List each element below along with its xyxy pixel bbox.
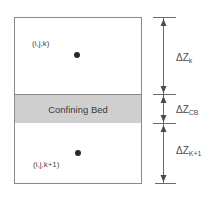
dz-k-delta: ΔZ [176,52,189,63]
dimension-lines [0,0,216,200]
dz-k-label: ΔZk [176,52,192,64]
dz-k-subscript: k [189,57,193,64]
dz-k1-subscript: K+1 [189,150,202,157]
dz-k1-label: ΔZK+1 [176,145,201,157]
dz-cb-subscript: CB [189,109,199,116]
dz-cb-label: ΔZCB [176,104,199,116]
dz-cb-delta: ΔZ [176,104,189,115]
dz-k1-delta: ΔZ [176,145,189,156]
